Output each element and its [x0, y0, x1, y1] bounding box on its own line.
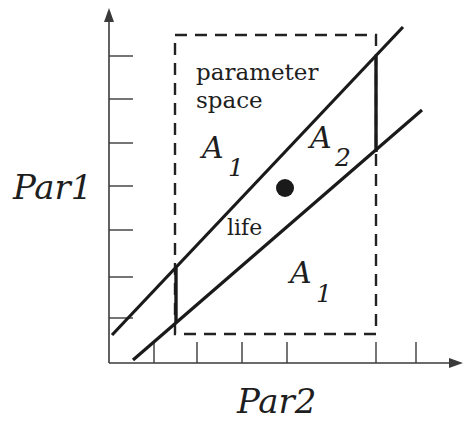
svg-text:1: 1 — [228, 153, 244, 182]
svg-text:1: 1 — [316, 279, 332, 308]
region-a1-lower-label: A 1 — [287, 255, 332, 308]
region-a2-label: A 2 — [307, 120, 351, 172]
region-a1-upper-label: A 1 — [199, 130, 244, 182]
life-region-label: life — [227, 215, 262, 240]
x-axis-label: Par2 — [236, 381, 317, 421]
x-axis — [109, 342, 463, 368]
parameter-space-label-line2: space — [196, 87, 263, 113]
y-axis-arrow-icon — [104, 8, 114, 22]
svg-text:2: 2 — [334, 143, 351, 172]
parameter-space-diagram: parameter space A 1 A 2 life A 1 Par1 Pa… — [0, 0, 468, 430]
y-axis — [104, 8, 133, 363]
x-axis-arrow-icon — [449, 358, 463, 368]
y-axis-label: Par1 — [12, 167, 93, 207]
svg-text:A: A — [287, 255, 312, 290]
svg-text:A: A — [199, 130, 224, 165]
parameter-space-label-line1: parameter — [196, 59, 318, 85]
svg-text:A: A — [307, 120, 332, 155]
point-marker — [276, 179, 294, 197]
